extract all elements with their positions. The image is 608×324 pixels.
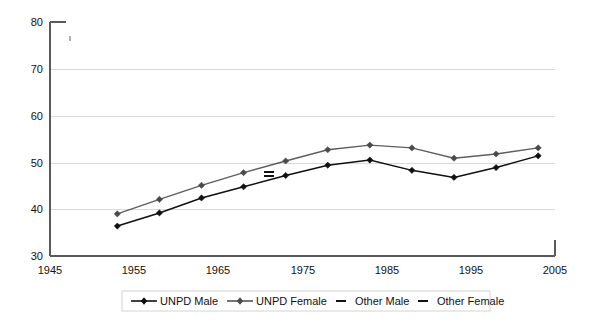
data-point-unpd-female-2003 — [535, 145, 541, 151]
data-point-unpd-female-1978 — [325, 147, 331, 153]
x-tick-1965: 1965 — [206, 264, 230, 276]
data-point-unpd-male-1993 — [451, 174, 457, 180]
x-tick-1955: 1955 — [122, 264, 146, 276]
legend-label-other-female: Other Female — [437, 295, 504, 307]
data-point-unpd-male-1973 — [283, 172, 289, 178]
series-unpd-male — [114, 153, 541, 229]
y-tick-labels: 80 70 60 50 40 30 — [31, 16, 43, 262]
y-tick-40: 40 — [31, 203, 43, 215]
y-tick-30: 30 — [31, 250, 43, 262]
data-point-unpd-male-1963 — [198, 195, 204, 201]
gridlines — [50, 69, 555, 209]
chart-legend: UNPD Male UNPD Female Other Male Other F… — [122, 291, 504, 311]
axes — [50, 22, 555, 256]
data-point-unpd-female-1983 — [367, 142, 373, 148]
chart-container: 80 70 60 50 40 30 1945 1955 1965 1975 19… — [0, 0, 608, 324]
data-point-unpd-female-1953 — [114, 211, 120, 217]
data-point-unpd-male-1983 — [367, 157, 373, 163]
series-layer — [114, 142, 541, 229]
data-point-unpd-female-1958 — [156, 196, 162, 202]
legend-label-other-male: Other Male — [355, 295, 409, 307]
y-tick-60: 60 — [31, 110, 43, 122]
x-tick-1985: 1985 — [375, 264, 399, 276]
series-line-unpd-female — [117, 145, 538, 214]
data-point-unpd-female-1963 — [198, 182, 204, 188]
x-tick-1995: 1995 — [459, 264, 483, 276]
data-point-unpd-male-1968 — [240, 184, 246, 190]
x-tick-1975: 1975 — [291, 264, 315, 276]
data-point-unpd-female-1993 — [451, 155, 457, 161]
data-point-unpd-female-1988 — [409, 145, 415, 151]
data-point-unpd-female-1998 — [493, 151, 499, 157]
data-point-unpd-male-1958 — [156, 210, 162, 216]
legend-label-unpd-female: UNPD Female — [256, 295, 327, 307]
data-point-unpd-male-1953 — [114, 223, 120, 229]
legend-label-unpd-male: UNPD Male — [160, 295, 218, 307]
data-point-unpd-male-1998 — [493, 164, 499, 170]
y-tick-50: 50 — [31, 157, 43, 169]
y-tick-80: 80 — [31, 16, 43, 28]
line-chart: 80 70 60 50 40 30 1945 1955 1965 1975 19… — [0, 0, 608, 324]
x-tick-2005: 2005 — [543, 264, 567, 276]
data-point-unpd-male-1988 — [409, 167, 415, 173]
data-point-unpd-male-2003 — [535, 153, 541, 159]
y-tick-70: 70 — [31, 63, 43, 75]
x-tick-labels: 1945 1955 1965 1975 1985 1995 2005 — [38, 264, 567, 276]
x-tick-1945: 1945 — [38, 264, 62, 276]
scan-speck — [69, 36, 71, 41]
data-point-unpd-female-1968 — [240, 170, 246, 176]
